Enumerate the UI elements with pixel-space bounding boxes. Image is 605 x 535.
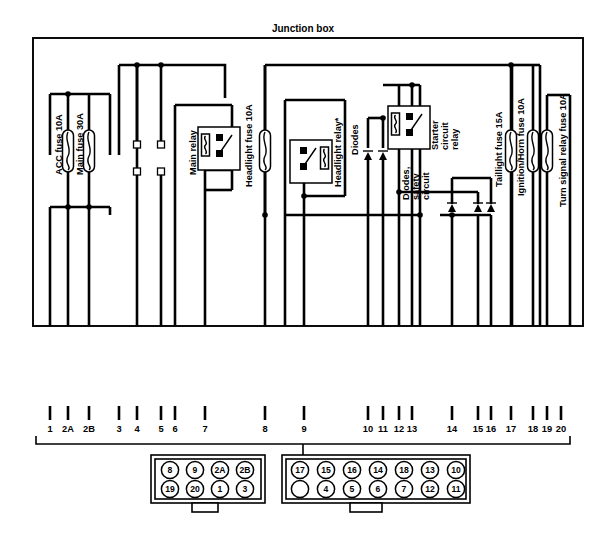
connector-pin-label-18: 18	[399, 465, 409, 475]
label-diodes: Diodes	[350, 124, 360, 155]
connector-pin-label-10: 10	[451, 465, 461, 475]
connector-pin-label-7: 7	[402, 484, 407, 494]
terminal-number-3: 3	[116, 424, 121, 434]
label-headlight-fuse: Headlight fuse 10A	[244, 104, 254, 187]
terminal-number-16: 16	[486, 424, 496, 434]
starter-relay-symbol	[388, 106, 430, 149]
main-relay-symbol	[198, 127, 240, 170]
label-turn-signal-fuse: Turn signal relay fuse 10A	[558, 93, 568, 207]
diodes-pair	[363, 115, 388, 326]
connector-pin-label-2B: 2B	[240, 465, 251, 475]
headlight-relay-symbol	[290, 140, 332, 183]
terminal-number-20: 20	[556, 424, 566, 434]
connector-pin-label-5: 5	[350, 484, 355, 494]
connector-pin-label-19: 19	[165, 484, 175, 494]
label-headlight-relay: Headlight relay*	[333, 117, 343, 187]
label-starter-relay-line3: relay	[450, 128, 460, 150]
headlight-fuse-wiring	[262, 65, 268, 326]
fuse-symbol-acc	[63, 130, 74, 172]
terminal-number-10: 10	[363, 424, 373, 434]
connector-pin-label-20: 20	[190, 484, 200, 494]
terminal-number-4: 4	[134, 424, 140, 434]
connector-pin-label-16: 16	[347, 465, 357, 475]
terminal-number-6: 6	[172, 424, 177, 434]
terminal-tick-group	[50, 406, 561, 420]
connector-pin-label-6: 6	[376, 484, 381, 494]
fuse-symbol-turn-signal	[542, 130, 553, 172]
connector-pin-label-1: 1	[218, 484, 223, 494]
connector-pin-label-14: 14	[373, 465, 383, 475]
terminal-number-1: 1	[47, 424, 52, 434]
terminal-number-18: 18	[528, 424, 538, 434]
terminal-number-group: 12A2B34567891011121314151617181920	[47, 424, 566, 434]
terminal-number-5: 5	[158, 424, 163, 434]
terminal-number-13: 13	[407, 424, 417, 434]
connector-pin-label-17: 17	[295, 465, 305, 475]
label-acc-fuse: ACC fuse 10A	[54, 114, 64, 175]
label-taillight-fuse: Taillight fuse 15A	[494, 111, 504, 187]
label-main-fuse: Main fuse 30A	[75, 113, 85, 175]
connector-pin-label-2A: 2A	[215, 465, 226, 475]
terminal-number-15: 15	[473, 424, 483, 434]
fuse-symbol-taillight	[506, 130, 517, 172]
terminal-number-9: 9	[301, 424, 306, 434]
fuse-symbol-ignition-horn	[528, 130, 539, 172]
label-main-relay: Main relay	[188, 129, 198, 175]
label-starter-relay-line2: circuit	[440, 122, 450, 150]
fuse-symbol-headlight	[260, 130, 271, 172]
connector-pin-label-4: 4	[324, 484, 329, 494]
diagram-canvas: Junction box	[0, 0, 605, 535]
label-diodes-safety-line3: circuit	[421, 172, 431, 200]
connector-pin-label-12: 12	[425, 484, 435, 494]
terminal-number-7: 7	[202, 424, 207, 434]
terminal-number-11: 11	[378, 424, 388, 434]
connector-pin-label-9: 9	[193, 465, 198, 475]
fuse-symbol-main	[84, 130, 95, 172]
terminal-number-17: 17	[506, 424, 516, 434]
label-starter-relay-line1: Starter	[430, 120, 440, 150]
terminal-number-8: 8	[262, 424, 267, 434]
connector-pin-label-8: 8	[168, 465, 173, 475]
terminal-squares	[134, 62, 165, 326]
page-title: Junction box	[272, 23, 335, 34]
terminal-number-12: 12	[394, 424, 404, 434]
connector-pin-label-13: 13	[425, 465, 435, 475]
terminal-number-19: 19	[542, 424, 552, 434]
label-ignition-horn-fuse: Ignition/Horn fuse 10A	[516, 98, 526, 196]
label-diodes-safety-line2: safety	[411, 173, 421, 200]
connector-pin-label-15: 15	[321, 465, 331, 475]
terminal-number-14: 14	[447, 424, 458, 434]
connector-pin-label-3: 3	[243, 484, 248, 494]
terminal-number-2B: 2B	[83, 424, 95, 434]
terminal-number-2A: 2A	[62, 424, 74, 434]
connector-pin-label-11: 11	[451, 484, 460, 494]
label-diodes-safety-line1: Diodes,	[401, 167, 411, 200]
connector-pin-blank[interactable]	[291, 480, 308, 497]
harness-bracket	[36, 436, 570, 455]
